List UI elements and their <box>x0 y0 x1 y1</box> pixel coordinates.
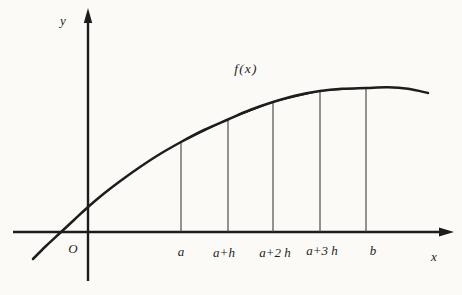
x-axis-arrowhead <box>439 228 454 237</box>
figure-page: yOf(x)aa+ha+2 ha+3 hbx <box>0 0 462 295</box>
y-axis-arrowhead <box>84 8 92 23</box>
figure-canvas <box>0 0 462 295</box>
